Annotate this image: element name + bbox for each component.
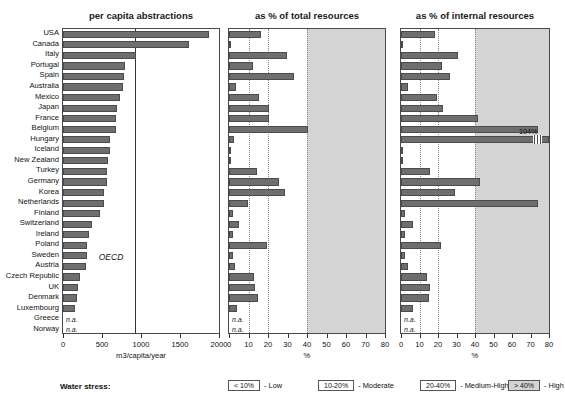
- tick-internal-30: [457, 334, 458, 338]
- bar-internal-france: [401, 115, 478, 122]
- bar-internal-spain: [401, 73, 450, 80]
- category-label-luxembourg: Luxembourg: [17, 304, 59, 312]
- gridline-40: [307, 29, 308, 333]
- category-label-norway: Norway: [33, 325, 59, 333]
- tick-internal-50: [494, 334, 495, 338]
- category-label-usa: USA: [43, 29, 59, 37]
- legend: Water stress: < 10%- Low10-20%- Moderate…: [0, 378, 554, 398]
- category-label-greece: Greece: [34, 314, 59, 322]
- category-label-korea: Korea: [39, 188, 59, 196]
- bar-internal-poland: [401, 242, 441, 249]
- bar-internal-hungary: [401, 136, 549, 143]
- tick-label-abstractions-1500: 1500: [164, 340, 196, 349]
- bar-internal-iceland: [401, 147, 403, 154]
- tick-total-0: [229, 334, 230, 338]
- bar-total-belgium: [229, 126, 308, 133]
- legend-swatch-1: 10-20%: [318, 380, 354, 391]
- bar-total-sweden: [229, 252, 233, 259]
- category-label-poland: Poland: [35, 240, 59, 248]
- bar-abstractions-mexico: [63, 94, 120, 101]
- tick-internal-20: [438, 334, 439, 338]
- category-label-belgium: Belgium: [32, 124, 59, 132]
- plot-area-abstractions: OECDn.a.n.a.: [62, 28, 220, 334]
- bar-total-germany: [229, 178, 279, 185]
- bar-internal-denmark: [401, 294, 429, 301]
- bar-total-italy: [229, 52, 287, 59]
- category-label-germany: Germany: [28, 177, 59, 185]
- bar-abstractions-new-zealand: [63, 157, 108, 164]
- tick-label-abstractions-0: 0: [47, 340, 79, 349]
- bar-abstractions-luxembourg: [63, 305, 75, 312]
- bar-abstractions-turkey: [63, 168, 107, 175]
- tick-abstractions-0: [63, 334, 64, 338]
- bar-internal-uk: [401, 284, 430, 291]
- legend-label-3: - High: [544, 381, 564, 390]
- bar-internal-turkey: [401, 168, 430, 175]
- tick-internal-40: [475, 334, 476, 338]
- bar-abstractions-spain: [63, 73, 124, 80]
- category-label-sweden: Sweden: [32, 251, 59, 259]
- bar-internal-japan: [401, 105, 443, 112]
- category-label-portugal: Portugal: [31, 61, 59, 69]
- category-label-netherlands: Netherlands: [18, 198, 59, 206]
- category-label-czech-republic: Czech Republic: [6, 272, 59, 280]
- tick-label-abstractions-500: 500: [86, 340, 118, 349]
- category-label-ireland: Ireland: [36, 230, 59, 238]
- bar-total-denmark: [229, 294, 258, 301]
- legend-item-0: < 10%- Low: [228, 380, 282, 391]
- bar-abstractions-ireland: [63, 231, 89, 238]
- bar-abstractions-australia: [63, 83, 123, 90]
- bar-total-netherlands: [229, 200, 248, 207]
- bar-total-austria: [229, 263, 235, 270]
- tick-label-abstractions-1000: 1000: [125, 340, 157, 349]
- bar-total-finland: [229, 210, 233, 217]
- water-stress-high-band: [475, 29, 549, 333]
- tick-label-internal-80: 80: [533, 340, 565, 349]
- tick-internal-80: [549, 334, 550, 338]
- bar-abstractions-poland: [63, 242, 87, 249]
- bar-total-hungary: [229, 136, 234, 143]
- bar-abstractions-france: [63, 115, 116, 122]
- no-data-marker: n.a.: [232, 316, 244, 323]
- tick-total-80: [385, 334, 386, 338]
- legend-swatch-2: 20-40%: [420, 380, 456, 391]
- no-data-marker: n.a.: [66, 326, 78, 333]
- category-label-iceland: Iceland: [35, 145, 60, 153]
- bar-total-mexico: [229, 94, 259, 101]
- axis-break-marker: [533, 135, 542, 144]
- bar-internal-usa: [401, 31, 435, 38]
- category-label-finland: Finland: [34, 209, 59, 217]
- bar-abstractions-netherlands: [63, 200, 104, 207]
- no-data-marker: n.a.: [404, 316, 416, 323]
- bar-abstractions-hungary: [63, 136, 110, 143]
- bar-total-new-zealand: [229, 157, 231, 164]
- legend-title: Water stress:: [60, 382, 110, 391]
- category-label-new-zealand: New Zealand: [14, 156, 59, 164]
- axis-label-internal: %: [400, 351, 550, 360]
- bar-abstractions-switzerland: [63, 221, 92, 228]
- tick-abstractions-500: [102, 334, 103, 338]
- bar-total-ireland: [229, 231, 233, 238]
- category-label-spain: Spain: [40, 71, 59, 79]
- bar-abstractions-sweden: [63, 252, 87, 259]
- tick-total-20: [268, 334, 269, 338]
- category-label-mexico: Mexico: [35, 93, 59, 101]
- oecd-average-line: [135, 29, 136, 333]
- tick-total-50: [327, 334, 328, 338]
- bar-abstractions-germany: [63, 178, 107, 185]
- annotation-104pct: 104%: [519, 127, 537, 136]
- bar-total-portugal: [229, 62, 253, 69]
- bar-abstractions-belgium: [63, 126, 116, 133]
- panel-title-internal: as % of internal resources: [400, 10, 550, 21]
- bar-abstractions-portugal: [63, 62, 125, 69]
- tick-total-10: [249, 334, 250, 338]
- bar-internal-new-zealand: [401, 157, 403, 164]
- category-label-uk: UK: [48, 283, 59, 291]
- bar-abstractions-czech-republic: [63, 273, 80, 280]
- bar-abstractions-finland: [63, 210, 100, 217]
- water-stress-high-band: [307, 29, 385, 333]
- category-label-austria: Austria: [35, 261, 59, 269]
- plot-area-total: n.a.n.a.: [228, 28, 386, 334]
- tick-abstractions-1500: [180, 334, 181, 338]
